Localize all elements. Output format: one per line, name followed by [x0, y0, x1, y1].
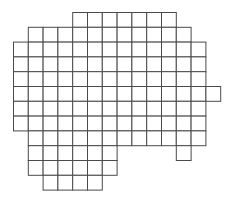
grid-cell-r5-c12 [191, 87, 206, 102]
grid-cell-r7-c6 [102, 116, 117, 131]
grid-cell-r5-c13 [206, 87, 221, 102]
grid-cell-r4-c11 [176, 72, 191, 87]
grid-cell-r3-c2 [43, 57, 58, 72]
grid-cell-r2-c4 [73, 42, 88, 57]
grid-cell-r5-c3 [58, 87, 73, 102]
grid-cell-r4-c10 [162, 72, 177, 87]
grid-cell-r6-c8 [132, 101, 147, 116]
grid-cell-r6-c3 [58, 101, 73, 116]
grid-cell-r7-c0 [14, 116, 29, 131]
grid-cell-r1-c6 [102, 27, 117, 42]
grid-cell-r7-c10 [162, 116, 177, 131]
grid-cell-r1-c11 [176, 27, 191, 42]
grid-cell-r1-c3 [58, 27, 73, 42]
grid-cell-r7-c11 [176, 116, 191, 131]
grid-cell-r1-c5 [88, 27, 103, 42]
grid-cell-r5-c6 [102, 87, 117, 102]
grid-cell-r9-c6 [102, 146, 117, 161]
grid-cell-r7-c8 [132, 116, 147, 131]
grid-cell-r6-c12 [191, 101, 206, 116]
grid-cell-r5-c5 [88, 87, 103, 102]
grid-cell-r2-c3 [58, 42, 73, 57]
grid-cell-r8-c1 [28, 131, 43, 146]
grid-cell-r7-c4 [73, 116, 88, 131]
grid-cell-r10-c3 [58, 161, 73, 176]
grid-cell-r2-c6 [102, 42, 117, 57]
grid-cell-r0-c9 [147, 13, 162, 28]
grid-cell-r6-c9 [147, 101, 162, 116]
grid-cell-r9-c5 [88, 146, 103, 161]
grid-cell-r5-c2 [43, 87, 58, 102]
grid-cell-r1-c1 [28, 27, 43, 42]
grid-cell-r6-c4 [73, 101, 88, 116]
grid-cell-r4-c5 [88, 72, 103, 87]
grid-cell-r6-c10 [162, 101, 177, 116]
grid-cell-r5-c8 [132, 87, 147, 102]
grid-cell-r6-c1 [28, 101, 43, 116]
grid-cell-r10-c6 [102, 161, 117, 176]
grid-cell-r11-c2 [43, 175, 58, 190]
grid-cell-r1-c4 [73, 27, 88, 42]
grid-cell-r8-c10 [162, 131, 177, 146]
grid-cell-r7-c5 [88, 116, 103, 131]
grid-cell-r11-c4 [73, 175, 88, 190]
grid-shape-diagram [0, 0, 235, 202]
grid-cell-r1-c7 [117, 27, 132, 42]
grid-cell-r2-c11 [176, 42, 191, 57]
grid-cell-r9-c11 [176, 146, 191, 161]
grid-cell-r4-c3 [58, 72, 73, 87]
grid-cell-r2-c8 [132, 42, 147, 57]
grid-cell-r3-c12 [191, 57, 206, 72]
grid-cell-r7-c12 [191, 116, 206, 131]
grid-cell-r2-c9 [147, 42, 162, 57]
grid-cell-r0-c5 [88, 13, 103, 28]
grid-cell-r1-c8 [132, 27, 147, 42]
grid-cell-r6-c11 [176, 101, 191, 116]
grid-cell-r10-c4 [73, 161, 88, 176]
grid-cell-r8-c12 [191, 131, 206, 146]
grid-cell-r8-c11 [176, 131, 191, 146]
grid-cell-r2-c1 [28, 42, 43, 57]
grid-cell-r4-c7 [117, 72, 132, 87]
grid-cell-r2-c5 [88, 42, 103, 57]
grid-cell-r5-c4 [73, 87, 88, 102]
grid-cell-r0-c4 [73, 13, 88, 28]
grid-cell-r3-c7 [117, 57, 132, 72]
grid-cell-r5-c7 [117, 87, 132, 102]
grid-cell-r3-c1 [28, 57, 43, 72]
grid-cell-r7-c2 [43, 116, 58, 131]
grid-cell-r4-c8 [132, 72, 147, 87]
grid-cell-r8-c6 [102, 131, 117, 146]
grid-cell-r5-c11 [176, 87, 191, 102]
grid-cell-r5-c1 [28, 87, 43, 102]
grid-cell-r9-c1 [28, 146, 43, 161]
grid-cell-r6-c0 [14, 101, 29, 116]
grid-cell-r3-c3 [58, 57, 73, 72]
grid-cell-r4-c4 [73, 72, 88, 87]
grid-cell-r8-c5 [88, 131, 103, 146]
grid-cell-r3-c8 [132, 57, 147, 72]
grid-cell-r6-c5 [88, 101, 103, 116]
grid-cell-r3-c4 [73, 57, 88, 72]
grid-cell-r4-c1 [28, 72, 43, 87]
grid-cell-r8-c2 [43, 131, 58, 146]
grid-cell-r4-c6 [102, 72, 117, 87]
grid-cell-r1-c10 [162, 27, 177, 42]
grid-cell-r8-c8 [132, 131, 147, 146]
grid-cell-r10-c2 [43, 161, 58, 176]
grid-cell-r3-c11 [176, 57, 191, 72]
grid-cell-r8-c9 [147, 131, 162, 146]
grid-cell-r2-c2 [43, 42, 58, 57]
grid-cell-r9-c3 [58, 146, 73, 161]
grid-cell-r3-c5 [88, 57, 103, 72]
grid-cell-r11-c3 [58, 175, 73, 190]
grid-cell-r0-c6 [102, 13, 117, 28]
grid-cell-r10-c1 [28, 161, 43, 176]
grid-cell-r3-c10 [162, 57, 177, 72]
grid-cell-r10-c5 [88, 161, 103, 176]
grid-cell-r6-c2 [43, 101, 58, 116]
grid-cell-r8-c3 [58, 131, 73, 146]
grid-cell-r0-c10 [162, 13, 177, 28]
grid-cell-r4-c9 [147, 72, 162, 87]
grid-cell-r9-c2 [43, 146, 58, 161]
